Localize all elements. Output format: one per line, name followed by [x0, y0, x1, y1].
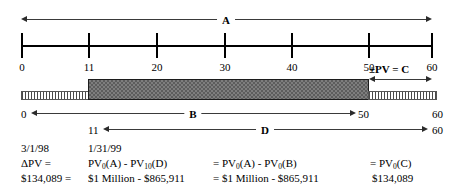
span-d-label: D [256, 125, 274, 136]
formula-col3-pv-a-minus-pv-b: = PV0(A) - PV0(B) [213, 157, 297, 171]
span-a-arrow: A [21, 16, 432, 24]
formula-col3-mid: (A) - PV [240, 157, 279, 169]
value-col4: $134,089 [372, 172, 413, 184]
axis-tick-0 [21, 33, 23, 58]
axis-tick-label-60: 60 [427, 62, 438, 73]
span-c-line [374, 79, 427, 80]
span-d-arrow: D [103, 126, 428, 134]
formula-col4-pv: = PV [370, 157, 393, 169]
axis-tick-20 [156, 33, 158, 58]
span-c-arrowhead-right [426, 76, 432, 82]
date-col2: 1/31/99 [88, 142, 122, 154]
axis-tick-label-0: 0 [19, 62, 25, 73]
formula-col2-sub-10: 10 [144, 162, 152, 171]
span-c-arrowhead-left [369, 76, 375, 82]
formula-col3-sub-0a: 0 [236, 162, 240, 171]
span-b-label: B [184, 109, 201, 120]
formula-col3-pv: = PV [213, 157, 236, 169]
pv-timeline-figure: A 0 11 20 30 40 50 60 ±PV = C 0 B 50 60 … [0, 0, 455, 191]
span-c-label: ±PV = C [369, 63, 409, 75]
axis-tick-label-20: 20 [152, 62, 163, 73]
axis-tick-label-30: 30 [220, 62, 231, 73]
formula-col1-delta-pv: ΔPV = [21, 157, 51, 169]
span-d-arrowhead-right [422, 126, 428, 132]
span-d-start-value: 11 [88, 124, 99, 136]
span-b-arrowhead-right [350, 110, 356, 116]
formula-col2-pv: PV [88, 157, 102, 169]
formula-col4-sub-0: 0 [393, 162, 397, 171]
value-col3: = $1 Million - $865,911 [213, 172, 319, 184]
span-c-arrow [369, 76, 432, 84]
value-col1: $134,089 = [21, 172, 71, 184]
formula-col4-pv-c: = PV0(C) [370, 157, 411, 171]
date-col1: 3/1/98 [21, 142, 49, 154]
span-b-arrow: B [31, 110, 356, 118]
span-d-end-value: 60 [432, 124, 443, 136]
formula-col2-end: (D) [152, 157, 167, 169]
axis-tick-label-40: 40 [287, 62, 298, 73]
axis-tick-30 [224, 33, 226, 58]
formula-col3-end: (B) [282, 157, 297, 169]
axis-tick-50 [368, 33, 370, 58]
span-d-arrowhead-left [103, 126, 109, 132]
span-a-arrowhead-left [21, 16, 27, 22]
axis-tick-11 [88, 33, 90, 58]
bar-segment-left-light [21, 91, 89, 100]
timeline-axis [21, 45, 433, 47]
formula-col3-sub-0b: 0 [278, 162, 282, 171]
axis-tick-label-11: 11 [84, 62, 95, 73]
span-b-end-value: 50 [358, 108, 369, 120]
axis-tick-60 [431, 33, 433, 58]
value-col2: $1 Million - $865,911 [88, 172, 185, 184]
formula-col2-mid: (A) - PV [106, 157, 145, 169]
formula-col2-sub-0: 0 [102, 162, 106, 171]
span-b-start-value: 0 [21, 108, 27, 120]
axis-tick-40 [291, 33, 293, 58]
span-a-label: A [217, 15, 235, 26]
span-a-arrowhead-right [426, 16, 432, 22]
span-b-far-value: 60 [432, 108, 443, 120]
formula-col2-pv-a-minus-pv10-d: PV0(A) - PV10(D) [88, 157, 167, 171]
formula-col4-end: (C) [397, 157, 412, 169]
span-b-arrowhead-left [31, 110, 37, 116]
bar-segment-middle-dark [88, 79, 369, 100]
bar-segment-right-light [368, 91, 437, 100]
